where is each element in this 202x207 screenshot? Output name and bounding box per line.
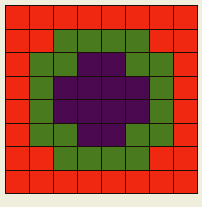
grid-cell-r0-c6 bbox=[150, 6, 173, 29]
grid-cell-r5-c4 bbox=[102, 124, 125, 147]
grid-cell-r7-c4 bbox=[102, 171, 125, 194]
grid-cell-r2-c1 bbox=[30, 53, 53, 76]
grid-cell-r3-c0 bbox=[6, 77, 29, 100]
grid-cell-r1-c5 bbox=[126, 30, 149, 53]
grid-cell-r6-c3 bbox=[78, 147, 101, 170]
grid-cell-r3-c3 bbox=[78, 77, 101, 100]
color-grid bbox=[5, 5, 198, 194]
grid-cell-r1-c3 bbox=[78, 30, 101, 53]
grid-frame bbox=[5, 5, 198, 194]
grid-cell-r5-c6 bbox=[150, 124, 173, 147]
grid-cell-r0-c1 bbox=[30, 6, 53, 29]
grid-cell-r5-c5 bbox=[126, 124, 149, 147]
grid-cell-r3-c1 bbox=[30, 77, 53, 100]
grid-cell-r4-c7 bbox=[174, 100, 197, 123]
grid-cell-r1-c6 bbox=[150, 30, 173, 53]
grid-cell-r5-c0 bbox=[6, 124, 29, 147]
grid-cell-r5-c2 bbox=[54, 124, 77, 147]
grid-cell-r5-c3 bbox=[78, 124, 101, 147]
grid-cell-r3-c6 bbox=[150, 77, 173, 100]
grid-cell-r2-c4 bbox=[102, 53, 125, 76]
grid-cell-r3-c4 bbox=[102, 77, 125, 100]
grid-cell-r6-c4 bbox=[102, 147, 125, 170]
grid-cell-r6-c1 bbox=[30, 147, 53, 170]
grid-cell-r7-c1 bbox=[30, 171, 53, 194]
grid-cell-r6-c0 bbox=[6, 147, 29, 170]
grid-cell-r2-c7 bbox=[174, 53, 197, 76]
grid-cell-r2-c6 bbox=[150, 53, 173, 76]
grid-cell-r6-c2 bbox=[54, 147, 77, 170]
grid-cell-r6-c6 bbox=[150, 147, 173, 170]
grid-cell-r2-c3 bbox=[78, 53, 101, 76]
grid-cell-r7-c3 bbox=[78, 171, 101, 194]
grid-cell-r1-c4 bbox=[102, 30, 125, 53]
grid-cell-r7-c2 bbox=[54, 171, 77, 194]
grid-cell-r6-c7 bbox=[174, 147, 197, 170]
grid-cell-r4-c5 bbox=[126, 100, 149, 123]
grid-cell-r0-c0 bbox=[6, 6, 29, 29]
grid-cell-r4-c6 bbox=[150, 100, 173, 123]
grid-cell-r5-c7 bbox=[174, 124, 197, 147]
grid-cell-r2-c2 bbox=[54, 53, 77, 76]
grid-cell-r1-c7 bbox=[174, 30, 197, 53]
grid-cell-r7-c0 bbox=[6, 171, 29, 194]
grid-cell-r3-c7 bbox=[174, 77, 197, 100]
grid-cell-r0-c4 bbox=[102, 6, 125, 29]
grid-cell-r7-c6 bbox=[150, 171, 173, 194]
grid-cell-r0-c3 bbox=[78, 6, 101, 29]
grid-cell-r2-c0 bbox=[6, 53, 29, 76]
grid-cell-r4-c3 bbox=[78, 100, 101, 123]
grid-cell-r5-c1 bbox=[30, 124, 53, 147]
grid-cell-r4-c4 bbox=[102, 100, 125, 123]
grid-cell-r4-c0 bbox=[6, 100, 29, 123]
grid-cell-r6-c5 bbox=[126, 147, 149, 170]
grid-cell-r0-c7 bbox=[174, 6, 197, 29]
grid-cell-r4-c2 bbox=[54, 100, 77, 123]
grid-cell-r3-c2 bbox=[54, 77, 77, 100]
grid-cell-r1-c1 bbox=[30, 30, 53, 53]
grid-cell-r4-c1 bbox=[30, 100, 53, 123]
grid-cell-r2-c5 bbox=[126, 53, 149, 76]
grid-cell-r7-c5 bbox=[126, 171, 149, 194]
grid-cell-r0-c2 bbox=[54, 6, 77, 29]
grid-cell-r0-c5 bbox=[126, 6, 149, 29]
grid-cell-r1-c2 bbox=[54, 30, 77, 53]
grid-cell-r3-c5 bbox=[126, 77, 149, 100]
grid-cell-r1-c0 bbox=[6, 30, 29, 53]
grid-cell-r7-c7 bbox=[174, 171, 197, 194]
artwork-canvas bbox=[0, 0, 202, 207]
